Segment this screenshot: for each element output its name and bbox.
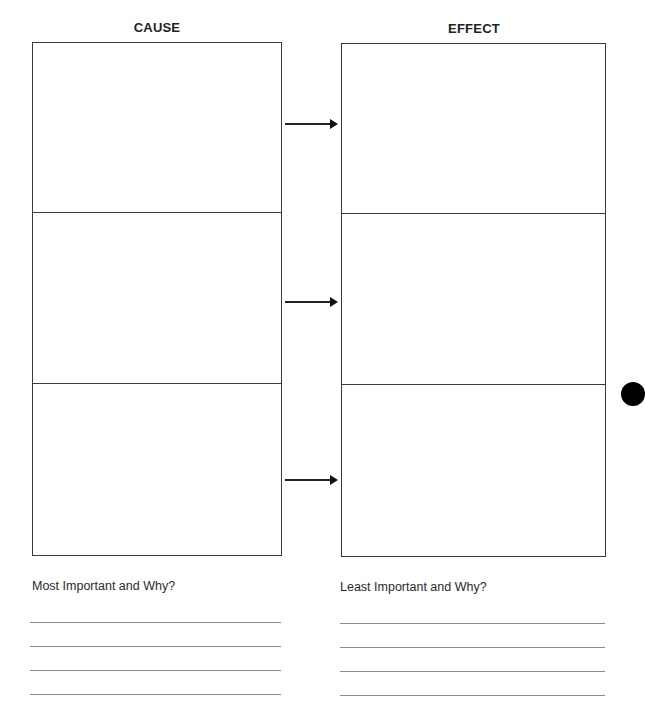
least-important-prompt: Least Important and Why? — [340, 580, 487, 594]
most-important-answer-line-1[interactable] — [30, 622, 281, 623]
effect-box-2[interactable] — [342, 214, 605, 385]
arrow-right-icon — [285, 475, 338, 485]
effect-box-3[interactable] — [342, 385, 605, 556]
most-important-prompt: Most Important and Why? — [32, 579, 175, 593]
least-important-answer-line-2[interactable] — [340, 647, 605, 648]
most-important-answer-line-4[interactable] — [30, 694, 281, 695]
cause-column — [32, 42, 282, 556]
arrow-right-icon — [285, 297, 338, 307]
least-important-answer-line-4[interactable] — [340, 695, 605, 696]
punch-hole-dot — [621, 382, 645, 406]
cause-box-1[interactable] — [33, 43, 281, 213]
effect-column — [341, 43, 606, 557]
most-important-answer-line-2[interactable] — [30, 646, 281, 647]
cause-box-2[interactable] — [33, 213, 281, 384]
effect-heading: EFFECT — [342, 21, 606, 36]
cause-heading: CAUSE — [32, 20, 282, 35]
least-important-answer-line-3[interactable] — [340, 671, 605, 672]
least-important-answer-line-1[interactable] — [340, 623, 605, 624]
most-important-answer-line-3[interactable] — [30, 670, 281, 671]
effect-box-1[interactable] — [342, 44, 605, 214]
cause-box-3[interactable] — [33, 384, 281, 555]
arrow-right-icon — [285, 119, 338, 129]
